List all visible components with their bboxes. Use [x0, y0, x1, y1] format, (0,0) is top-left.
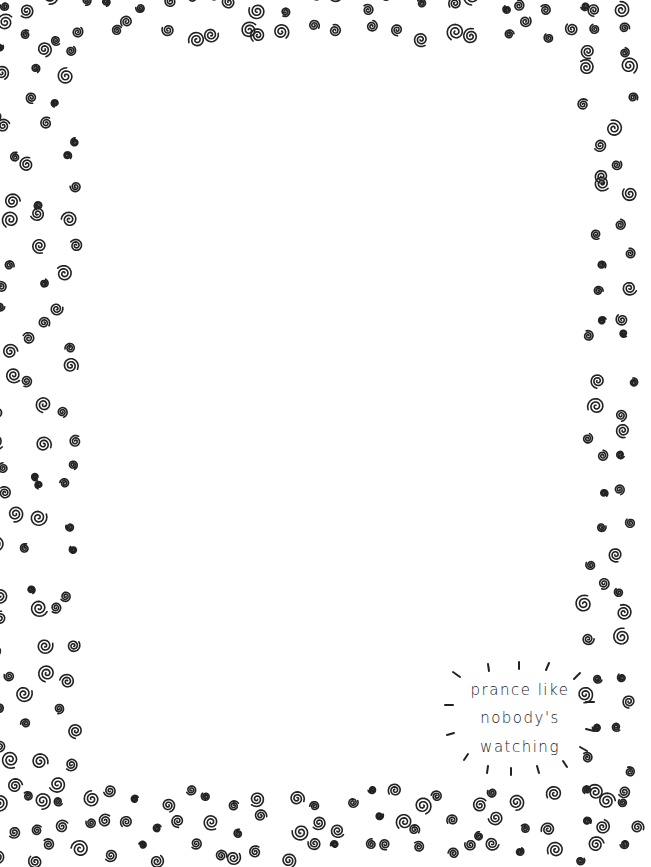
swirl-icon — [36, 398, 49, 413]
swirl-icon — [64, 152, 71, 159]
swirl-icon — [20, 157, 31, 170]
swirl-icon — [601, 490, 608, 497]
swirl-icon — [11, 152, 19, 161]
swirl-icon — [162, 26, 173, 36]
swirl-icon — [599, 317, 606, 324]
swirl-icon — [488, 813, 502, 825]
swirl-icon — [252, 793, 264, 806]
swirl-icon — [581, 60, 593, 74]
swirl-icon — [217, 850, 227, 859]
swirl-icon — [35, 482, 42, 489]
swirl-icon — [313, 817, 325, 829]
swirl-icon — [67, 759, 77, 770]
swirl-icon — [106, 851, 117, 862]
swirl-icon — [73, 28, 83, 37]
swirl-icon — [234, 829, 241, 837]
swirl-icon — [415, 34, 426, 47]
swirl-icon — [104, 786, 115, 796]
swirl-icon — [632, 821, 644, 831]
swirl-icon — [618, 605, 631, 619]
swirl-icon — [84, 791, 98, 806]
swirl-icon — [58, 68, 72, 83]
swirl-icon — [486, 839, 499, 850]
swirl-icon — [61, 592, 70, 601]
swirl-icon — [308, 839, 320, 850]
swirl-icon — [283, 854, 296, 867]
swirl-icon — [86, 819, 95, 827]
swirl-icon — [32, 601, 47, 616]
swirl-icon — [577, 858, 585, 865]
swirl-icon — [310, 802, 319, 810]
swirl-icon — [29, 856, 41, 867]
swirl-icon — [0, 119, 10, 130]
swirl-icon — [620, 23, 629, 31]
swirl-icon — [10, 828, 20, 838]
swirl-icon — [38, 640, 53, 653]
swirl-icon — [139, 841, 146, 848]
swirl-icon — [0, 44, 3, 50]
swirl-icon — [103, 0, 110, 6]
swirl-icon — [165, 0, 175, 6]
swirl-icon — [41, 117, 50, 128]
swirl-icon — [487, 789, 495, 797]
swirl-icon — [61, 212, 76, 225]
swirl-icon — [0, 463, 7, 473]
swirl-icon — [581, 46, 593, 59]
swirl-icon — [418, 0, 426, 7]
swirl-icon — [36, 794, 50, 809]
swirl-icon — [591, 375, 603, 388]
swirl-icon — [204, 816, 216, 830]
swirl-icon — [0, 435, 2, 450]
swirl-icon — [33, 825, 42, 834]
swirl-icon — [576, 595, 590, 611]
swirl-icon — [332, 825, 344, 837]
swirl-icon — [474, 798, 486, 811]
swirl-icon — [594, 287, 603, 295]
swirl-icon — [622, 58, 637, 73]
swirl-icon — [380, 840, 389, 850]
swirl-icon — [626, 767, 634, 776]
swirl-icon — [33, 240, 45, 254]
swirl-icon — [192, 839, 201, 849]
swirl-icon — [584, 434, 593, 443]
swirl-icon — [618, 674, 626, 681]
swirl-icon — [626, 519, 635, 527]
swirl-icon — [598, 261, 606, 268]
swirl-icon — [64, 359, 78, 371]
swirl-icon — [24, 792, 32, 800]
swirl-icon — [121, 817, 132, 827]
quote-line-1: prance like — [440, 681, 600, 699]
swirl-icon — [0, 113, 1, 120]
swirl-icon — [0, 851, 4, 864]
swirl-icon — [588, 5, 598, 16]
swirl-icon — [595, 177, 608, 190]
swirl-icon — [0, 3, 8, 10]
swirl-icon — [623, 283, 636, 295]
swirl-icon — [3, 753, 17, 769]
swirl-icon — [44, 0, 58, 4]
swirl-icon — [250, 846, 260, 857]
swirl-icon — [548, 843, 563, 856]
swirl-icon — [222, 0, 233, 8]
swirl-icon — [22, 377, 31, 387]
swirl-icon — [201, 793, 209, 800]
swirl-icon — [0, 67, 8, 80]
swirl-icon — [364, 5, 373, 15]
swirl-icon — [26, 93, 35, 103]
swirl-icon — [415, 842, 424, 852]
swirl-icon — [620, 841, 628, 849]
swirl-icon — [153, 824, 161, 831]
swirl-icon — [121, 16, 131, 25]
swirl-icon — [515, 0, 524, 10]
swirl-icon — [544, 34, 552, 42]
swirl-icon — [310, 21, 320, 30]
swirl-icon — [629, 93, 638, 101]
swirl-icon — [28, 586, 35, 593]
swirl-icon — [291, 792, 304, 804]
printable-page: prance like nobody's watching — [0, 0, 651, 867]
swirl-icon — [615, 485, 624, 495]
swirl-icon — [597, 820, 609, 833]
swirl-icon — [617, 425, 629, 438]
swirl-icon — [410, 825, 420, 833]
swirl-icon — [1, 487, 11, 498]
